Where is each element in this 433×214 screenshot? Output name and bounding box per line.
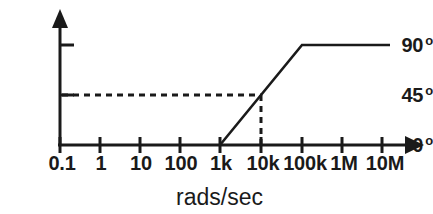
x-axis-label-100: 100 (165, 152, 198, 175)
phase-bode-plot-figure: 90o 45o 0o 0.1 1 10 100 1k 10k 100k 1M 1… (0, 0, 433, 214)
x-axis-label-1: 1 (96, 152, 107, 175)
y-axis-label-45: 45o (377, 95, 433, 120)
x-axis-title: rads/sec (0, 184, 433, 211)
degree-icon: o (425, 83, 433, 98)
y-axis-label-90-value: 90 (401, 34, 423, 56)
x-axis-label-1k: 1k (210, 152, 232, 175)
x-axis-label-10M: 10M (366, 152, 404, 175)
x-axis-label-0.1: 0.1 (48, 152, 75, 175)
x-axis-title-text: rads/sec (176, 184, 263, 211)
y-axis-label-90: 90o (377, 45, 433, 70)
degree-icon: o (425, 33, 433, 48)
x-axis-label-100k: 100k (283, 152, 327, 175)
degree-icon: o (425, 133, 433, 148)
x-axis-label-10: 10 (130, 152, 152, 175)
phase-curve (220, 45, 390, 145)
x-axis-label-1M: 1M (330, 152, 357, 175)
y-axis-arrowhead (52, 9, 68, 28)
x-axis-label-10k: 10k (247, 152, 280, 175)
y-axis-label-0-value: 0 (412, 134, 423, 156)
plot-canvas (0, 0, 433, 214)
y-axis-label-45-value: 45 (401, 84, 423, 106)
